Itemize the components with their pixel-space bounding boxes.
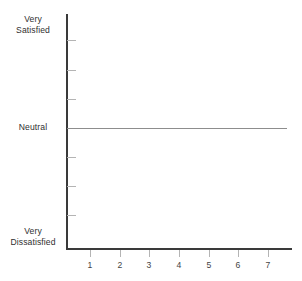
y-axis-label-line-1: Neutral [2, 122, 64, 133]
y-axis-tick [67, 186, 76, 187]
y-axis-label-line-2: Satisfied [2, 25, 64, 36]
y-axis-tick [67, 157, 76, 158]
y-axis-label-line-2: Dissatisfied [2, 237, 64, 248]
neutral-reference-line [67, 128, 287, 129]
y-axis-label-neutral: Neutral [2, 122, 64, 133]
x-axis-tick-label: 5 [200, 260, 218, 271]
y-axis-label-very-satisfied: Very Satisfied [2, 14, 64, 36]
y-axis-label-line-1: Very [2, 14, 64, 25]
x-axis-tick [120, 250, 121, 257]
x-axis-tick-label: 6 [229, 260, 247, 271]
y-axis-tick [67, 40, 76, 41]
x-axis-tick-label: 7 [259, 260, 277, 271]
plot-area: Very Satisfied Neutral Very Dissatisfied… [0, 0, 302, 281]
y-axis-tick [67, 99, 76, 100]
satisfaction-scale-chart: Very Satisfied Neutral Very Dissatisfied… [0, 0, 302, 281]
x-axis-tick-label: 1 [81, 260, 99, 271]
x-axis-tick [268, 250, 269, 257]
y-axis-tick [67, 70, 76, 71]
x-axis-tick [179, 250, 180, 257]
y-axis-label-very-dissatisfied: Very Dissatisfied [2, 226, 64, 248]
x-axis-tick [149, 250, 150, 257]
x-axis-tick [238, 250, 239, 257]
x-axis-tick [209, 250, 210, 257]
y-axis-tick [67, 215, 76, 216]
x-axis-tick-label: 2 [111, 260, 129, 271]
x-axis-tick-label: 4 [170, 260, 188, 271]
y-axis-label-line-1: Very [2, 226, 64, 237]
x-axis-tick [90, 250, 91, 257]
x-axis-tick-label: 3 [140, 260, 158, 271]
